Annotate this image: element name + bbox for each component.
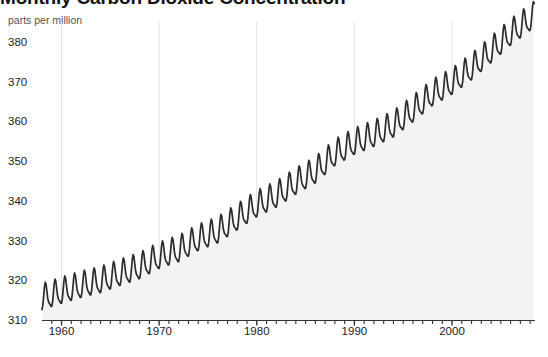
chart-container: Monthly Carbon Dioxide Concentration par…: [0, 0, 548, 357]
x-tick-label: 1960: [49, 325, 75, 337]
x-tick-label: 1990: [342, 325, 368, 337]
x-tick-label: 1980: [244, 325, 270, 337]
x-tick-label: 1970: [146, 325, 172, 337]
x-axis: 19601970198019902000: [0, 0, 548, 357]
x-tick-label: 2000: [439, 325, 465, 337]
